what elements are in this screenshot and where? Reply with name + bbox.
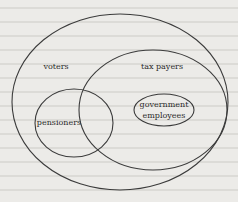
pensioners-label: pensioners [37,118,81,127]
government-employees-label-line1: government [140,100,190,109]
tax-payers-label: tax payers [141,62,183,71]
voters-label: voters [42,62,68,71]
venn-diagram: voters tax payers pensioners government … [0,0,238,202]
government-employees-set [134,94,194,126]
diagram-svg: voters tax payers pensioners government … [0,0,238,202]
paper-texture [0,8,238,190]
government-employees-label-line2: employees [143,111,186,120]
